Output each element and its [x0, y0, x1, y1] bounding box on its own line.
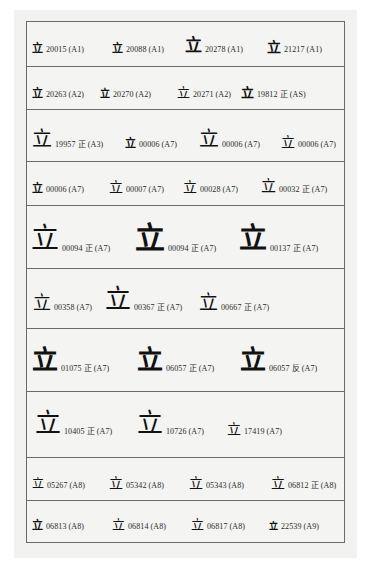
glyph-entry: 立 00006 (A7): [125, 138, 177, 149]
entry-label: 20263 (A2): [46, 91, 84, 99]
entry-label: 19812 正 (AS): [257, 91, 306, 99]
glyph-entry: 立 19957 正 (A3): [32, 129, 103, 149]
table-row: 立 00006 (A7) 立 00007 (A7) 立 00028 (A7) 立…: [27, 161, 344, 206]
glyph-entry: 立 20270 (A2): [100, 89, 151, 99]
table-row: 立 20015 (A1) 立 20088 (A1) 立 20278 (A1) 立…: [27, 22, 344, 66]
glyph-image-icon: 立: [137, 410, 163, 436]
glyph-entry: 立 06057 正 (A7): [137, 347, 214, 373]
entry-label: 00137 正 (A7): [270, 245, 318, 253]
glyph-entry: 立 00137 正 (A7): [239, 225, 318, 253]
entry-label: 21217 (A1): [284, 46, 322, 54]
glyph-image-icon: 立: [32, 43, 43, 54]
glyph-entry: 立 01075 正 (A7): [32, 347, 109, 373]
entry-label: 00094 正 (A7): [62, 245, 110, 253]
glyph-entry: 立 00358 (A7): [33, 294, 92, 312]
glyph-image-icon: 立: [177, 86, 190, 99]
glyph-image-icon: 立: [267, 40, 281, 54]
entry-label: 00006 (A7): [298, 141, 336, 149]
table-row: 立 01075 正 (A7) 立 06057 正 (A7) 立 06057 反 …: [27, 328, 344, 392]
entry-label: 00028 (A7): [200, 186, 238, 194]
table-row: 立 00358 (A7) 立 00367 正 (A7) 立 00667 正 (A…: [27, 268, 344, 329]
entry-label: 05343 (A8): [206, 482, 244, 490]
glyph-entry: 立 06817 (A8): [191, 518, 245, 531]
entry-label: 20088 (A1): [126, 46, 164, 54]
glyph-table: 立 20015 (A1) 立 20088 (A1) 立 20278 (A1) 立…: [26, 21, 345, 543]
glyph-entry: 立 10726 (A7): [137, 410, 204, 436]
glyph-entry: 立 20015 (A1): [32, 43, 84, 54]
glyph-image-icon: 立: [109, 476, 123, 490]
table-row: 立 06813 (A8) 立 06814 (A8) 立 06817 (A8) 立…: [27, 500, 344, 543]
glyph-image-icon: 立: [269, 522, 278, 531]
glyph-entry: 立 00028 (A7): [183, 180, 238, 194]
entry-label: 00032 正 (A7): [279, 186, 327, 194]
entry-label: 01075 正 (A7): [61, 365, 109, 373]
entry-label: 20271 (A2): [193, 91, 231, 99]
glyph-image-icon: 立: [199, 293, 218, 312]
glyph-entry: 立 00007 (A7): [109, 180, 164, 194]
glyph-image-icon: 立: [100, 89, 110, 99]
glyph-image-icon: 立: [241, 86, 254, 99]
entry-label: 10726 (A7): [166, 428, 204, 436]
entry-label: 06813 (A8): [46, 523, 84, 531]
glyph-image-icon: 立: [32, 88, 43, 99]
glyph-image-icon: 立: [125, 138, 136, 149]
table-row: 立 20263 (A2) 立 20270 (A2) 立 20271 (A2) 立…: [27, 66, 344, 110]
entry-label: 05267 (A8): [47, 482, 85, 490]
glyph-entry: 立 00094 正 (A7): [135, 223, 216, 253]
entry-label: 17419 (A7): [244, 428, 282, 436]
table-row: 立 19957 正 (A3) 立 00006 (A7) 立 00006 (A7)…: [27, 109, 344, 162]
entry-label: 06057 反 (A7): [269, 365, 317, 373]
glyph-image-icon: 立: [183, 180, 197, 194]
glyph-entry: 立 06812 正 (A8): [271, 476, 336, 490]
glyph-entry: 立 17419 (A7): [227, 422, 282, 436]
glyph-entry: 立 05342 (A8): [109, 476, 164, 490]
glyph-entry: 立 00367 正 (A7): [105, 286, 182, 312]
entry-label: 06812 正 (A8): [288, 482, 336, 490]
table-row: 立 05267 (A8) 立 05342 (A8) 立 05343 (A8) 立…: [27, 457, 344, 501]
entry-label: 00007 (A7): [126, 186, 164, 194]
glyph-entry: 立 20088 (A1): [112, 43, 164, 54]
entry-label: 00006 (A7): [139, 141, 177, 149]
glyph-image-icon: 立: [227, 422, 241, 436]
glyph-entry: 立 10405 正 (A7): [35, 410, 112, 436]
entry-label: 00006 (A7): [222, 141, 260, 149]
glyph-image-icon: 立: [32, 183, 43, 194]
glyph-image-icon: 立: [32, 347, 58, 373]
entry-label: 00367 正 (A7): [134, 304, 182, 312]
entry-label: 00094 正 (A7): [168, 245, 216, 253]
glyph-entry: 立 00667 正 (A7): [199, 293, 269, 312]
glyph-image-icon: 立: [32, 520, 43, 531]
glyph-entry: 立 06057 反 (A7): [240, 347, 317, 373]
entry-label: 10405 正 (A7): [64, 428, 112, 436]
glyph-entry: 立 05267 (A8): [32, 478, 85, 490]
glyph-image-icon: 立: [240, 347, 266, 373]
glyph-entry: 立 00094 正 (A7): [31, 225, 110, 253]
entry-label: 00006 (A7): [46, 186, 84, 194]
glyph-entry: 立 00032 正 (A7): [261, 179, 327, 194]
table-row: 立 00094 正 (A7) 立 00094 正 (A7) 立 00137 正 …: [27, 205, 344, 269]
entry-label: 00358 (A7): [54, 304, 92, 312]
glyph-entry: 立 20278 (A1): [185, 37, 243, 54]
entry-label: 19957 正 (A3): [55, 141, 103, 149]
entry-label: 06814 (A8): [128, 523, 166, 531]
glyph-image-icon: 立: [135, 223, 165, 253]
entry-label: 06057 正 (A7): [166, 365, 214, 373]
glyph-image-icon: 立: [189, 476, 203, 490]
glyph-image-icon: 立: [281, 135, 295, 149]
glyph-image-icon: 立: [261, 179, 276, 194]
glyph-image-icon: 立: [35, 410, 61, 436]
entry-label: 22539 (A9): [281, 523, 319, 531]
glyph-image-icon: 立: [31, 225, 59, 253]
glyph-entry: 立 06813 (A8): [32, 520, 84, 531]
glyph-image-icon: 立: [32, 478, 44, 490]
glyph-entry: 立 00006 (A7): [199, 129, 260, 149]
glyph-entry: 立 19812 正 (AS): [241, 86, 306, 99]
entry-label: 05342 (A8): [126, 482, 164, 490]
entry-label: 00667 正 (A7): [221, 304, 269, 312]
entry-label: 06817 (A8): [207, 523, 245, 531]
glyph-image-icon: 立: [199, 129, 219, 149]
glyph-image-icon: 立: [137, 347, 163, 373]
glyph-entry: 立 00006 (A7): [32, 183, 84, 194]
entry-label: 20270 (A2): [113, 91, 151, 99]
table-row: 立 10405 正 (A7) 立 10726 (A7) 立 17419 (A7): [27, 391, 344, 458]
